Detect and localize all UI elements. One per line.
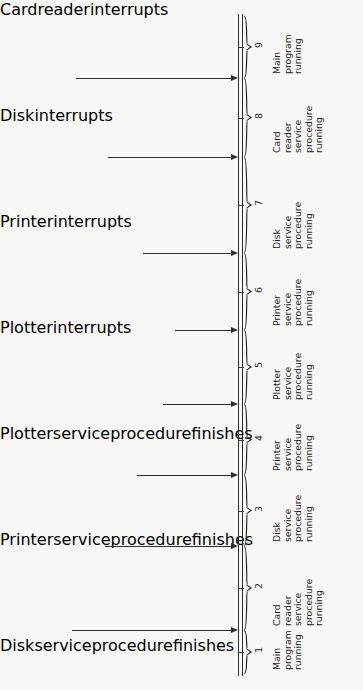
- event-caption-line: Printer: [0, 212, 53, 231]
- state-label-line: running: [304, 334, 315, 400]
- event-caption-line: Plotter: [0, 424, 53, 443]
- event-leader-line: [163, 404, 231, 405]
- event-caption-line: service: [34, 636, 91, 655]
- event-caption-line: reader: [37, 0, 89, 19]
- period-tick: [238, 511, 244, 512]
- event-caption-line: Printer: [0, 530, 53, 549]
- event-caption-line: Plotter: [0, 318, 53, 337]
- event-leader-line: [108, 157, 231, 158]
- period-index-8: 8: [254, 113, 264, 119]
- period-index-3: 3: [254, 506, 264, 512]
- arrowhead-icon: [231, 75, 238, 81]
- event-caption-line: service: [53, 530, 110, 549]
- period-tick: [238, 292, 244, 293]
- state-label-line: running: [304, 161, 315, 249]
- state-label-line: running: [314, 82, 325, 153]
- state-label-line: running: [314, 550, 325, 626]
- period-state-label: Cardreaderserviceprocedurerunning: [272, 550, 325, 626]
- arrowhead-icon: [231, 543, 238, 549]
- period-tick: [238, 440, 244, 441]
- event-leader-line: [137, 475, 231, 476]
- state-label-line: running: [304, 408, 315, 471]
- event-leader-line: [143, 253, 231, 254]
- arrowhead-icon: [231, 401, 238, 407]
- event-caption-line: interrupts: [53, 318, 131, 337]
- period-index-9: 9: [254, 42, 264, 48]
- period-tick: [238, 367, 244, 368]
- period-index-4: 4: [254, 435, 264, 441]
- event-caption-line: Disk: [0, 106, 34, 125]
- period-state-label: Mainprogramrunning: [272, 20, 304, 74]
- event-leader-line: [175, 330, 231, 331]
- period-brace: [244, 78, 251, 157]
- period-brace: [244, 475, 251, 546]
- event-caption-line: Card: [0, 0, 37, 19]
- period-tick: [238, 205, 244, 206]
- period-brace: [244, 404, 251, 475]
- period-brace: [244, 157, 251, 253]
- period-tick: [238, 652, 244, 653]
- event-caption-line: interrupts: [53, 212, 131, 231]
- state-label-line: running: [293, 634, 304, 670]
- arrowhead-icon: [231, 250, 238, 256]
- arrowhead-icon: [231, 154, 238, 160]
- period-index-6: 6: [254, 287, 264, 293]
- period-index-5: 5: [254, 362, 264, 368]
- period-state-label: Printerserviceprocedurerunning: [272, 408, 314, 471]
- event-caption-line: Disk: [0, 636, 34, 655]
- period-brace: [244, 330, 251, 404]
- event-caption-line: interrupts: [34, 106, 112, 125]
- interrupt-timeline-figure: 123456789 MainprogramrunningCardreaderse…: [0, 0, 363, 690]
- state-label-line: running: [293, 20, 304, 74]
- period-state-label: Plotterserviceprocedurerunning: [272, 334, 314, 400]
- period-brace: [244, 630, 251, 674]
- event-caption-line: finishes: [173, 636, 234, 655]
- period-index-2: 2: [254, 583, 264, 589]
- period-state-label: Cardreaderserviceprocedurerunning: [272, 82, 325, 153]
- event-caption-line: interrupts: [90, 0, 168, 19]
- event-caption-line: procedure: [110, 424, 191, 443]
- state-label-line: running: [304, 257, 315, 326]
- period-brace: [244, 546, 251, 630]
- period-tick: [238, 588, 244, 589]
- period-brace: [244, 16, 251, 78]
- period-state-label: Diskserviceprocedurerunning: [272, 479, 314, 542]
- arrowhead-icon: [231, 627, 238, 633]
- period-state-label: Diskserviceprocedurerunning: [272, 161, 314, 249]
- period-index-1: 1: [254, 647, 264, 653]
- event-leader-line: [76, 78, 231, 79]
- event-caption-line: procedure: [92, 636, 173, 655]
- event-caption-disk-service-procedure-finishes: Diskserviceprocedurefinishes: [0, 636, 363, 690]
- state-label-line: running: [304, 479, 315, 542]
- event-leader-line: [72, 630, 231, 631]
- period-index-7: 7: [254, 200, 264, 206]
- arrowhead-icon: [231, 327, 238, 333]
- event-caption-line: service: [53, 424, 110, 443]
- period-state-label: Printerserviceprocedurerunning: [272, 257, 314, 326]
- period-brace: [244, 253, 251, 330]
- arrowhead-icon: [231, 472, 238, 478]
- event-leader-line: [105, 546, 231, 547]
- period-state-label: Mainprogramrunning: [272, 634, 304, 670]
- period-tick: [238, 47, 244, 48]
- period-tick: [238, 118, 244, 119]
- time-axis: [238, 14, 243, 676]
